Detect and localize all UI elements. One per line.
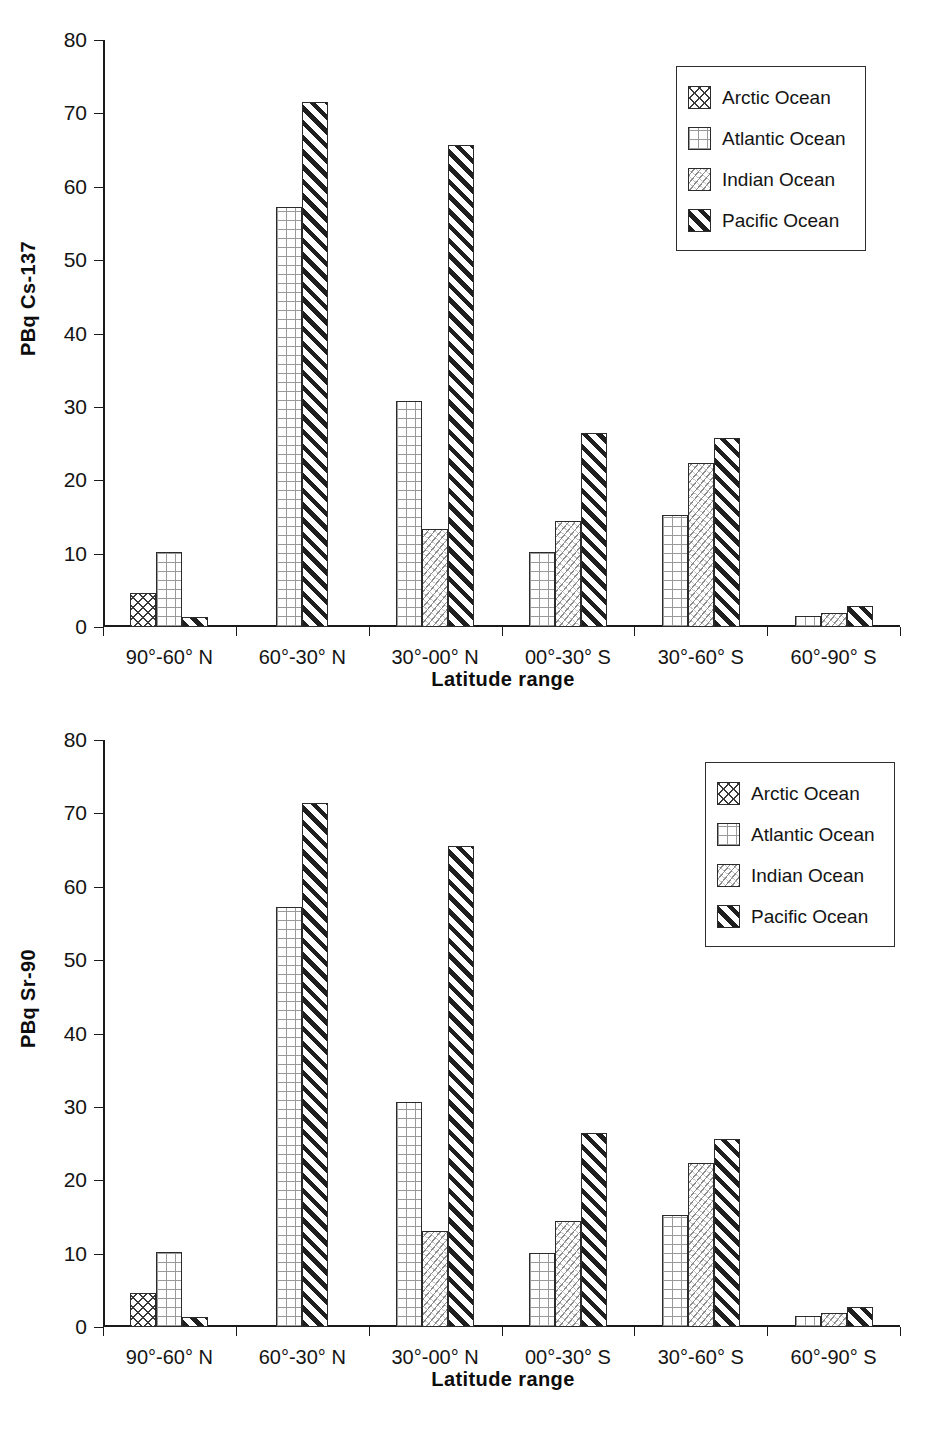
y-axis-tick: 80 (94, 740, 103, 741)
legend-item: Arctic Ocean (688, 77, 851, 118)
bar (688, 1163, 714, 1327)
x-axis-title: Latitude range (103, 668, 903, 691)
bar (276, 907, 302, 1327)
x-axis-category-label: 60°-90° S (791, 1347, 877, 1367)
x-axis-category-label: 00°-30° S (525, 647, 611, 667)
legend-swatch-icon (688, 168, 711, 191)
y-axis-tick-label: 50 (64, 249, 87, 270)
bar (795, 1316, 821, 1327)
bar (302, 803, 328, 1327)
bar (396, 1102, 422, 1327)
bar (156, 552, 182, 627)
legend-item-label: Indian Ocean (751, 866, 864, 885)
legend: Arctic OceanAtlantic OceanIndian OceanPa… (676, 66, 866, 251)
x-axis-category-label: 90°-60° N (126, 1347, 213, 1367)
x-axis-title: Latitude range (103, 1368, 903, 1391)
legend-item-label: Atlantic Ocean (722, 129, 846, 148)
y-axis-tick-label: 30 (64, 396, 87, 417)
y-axis-tick-label: 0 (75, 616, 87, 637)
y-axis-tick-label: 0 (75, 1316, 87, 1337)
bar (422, 1231, 448, 1327)
x-axis-category-label: 60°-30° N (259, 1347, 346, 1367)
bar (156, 1252, 182, 1327)
y-axis-tick: 60 (94, 187, 103, 188)
legend-item: Arctic Ocean (717, 773, 880, 814)
legend-swatch-icon (688, 86, 711, 109)
x-axis-category-label: 30°-60° S (658, 647, 744, 667)
x-axis-tick (369, 627, 370, 636)
y-axis-tick-label: 60 (64, 876, 87, 897)
y-axis-tick: 10 (94, 1254, 103, 1255)
bar (529, 552, 555, 627)
bar (448, 145, 474, 627)
legend-swatch-icon (688, 209, 711, 232)
y-axis-tick-label: 10 (64, 1243, 87, 1264)
bar (555, 521, 581, 627)
y-axis-tick-label: 60 (64, 176, 87, 197)
y-axis-tick-label: 20 (64, 1169, 87, 1190)
x-axis-tick (900, 627, 901, 636)
legend-swatch-icon (717, 864, 740, 887)
bar (182, 1317, 208, 1327)
y-axis-tick: 0 (94, 627, 103, 628)
legend-item-label: Atlantic Ocean (751, 825, 875, 844)
y-axis-tick-label: 70 (64, 102, 87, 123)
y-axis-tick: 0 (94, 1327, 103, 1328)
y-axis-tick-label: 50 (64, 949, 87, 970)
y-axis-title: PBq Sr-90 (17, 909, 40, 1089)
legend-swatch-icon (717, 782, 740, 805)
y-axis-tick-label: 80 (64, 729, 87, 750)
bar (182, 617, 208, 627)
x-axis-tick (369, 1327, 370, 1336)
y-axis-tick: 40 (94, 334, 103, 335)
legend-item-label: Pacific Ocean (722, 211, 839, 230)
y-axis-tick: 40 (94, 1034, 103, 1035)
legend-swatch-icon (717, 905, 740, 928)
y-axis-tick-label: 80 (64, 29, 87, 50)
bar (662, 515, 688, 627)
y-axis-tick: 10 (94, 554, 103, 555)
y-axis-line (103, 40, 105, 627)
bar (130, 1293, 156, 1327)
x-axis-tick (634, 627, 635, 636)
y-axis-tick-label: 40 (64, 323, 87, 344)
legend-item: Pacific Ocean (717, 896, 880, 937)
legend-item-label: Arctic Ocean (722, 88, 831, 107)
y-axis-tick: 60 (94, 887, 103, 888)
legend: Arctic OceanAtlantic OceanIndian OceanPa… (705, 762, 895, 947)
x-axis-tick (502, 627, 503, 636)
x-axis-category-label: 00°-30° S (525, 1347, 611, 1367)
bar (130, 593, 156, 627)
y-axis-tick: 20 (94, 480, 103, 481)
chart-panel-sr90: PBq Sr-90 01020304050607080 90°-60° N60°… (0, 700, 935, 1431)
y-axis-tick-label: 10 (64, 543, 87, 564)
bar (529, 1253, 555, 1327)
x-axis-tick (236, 627, 237, 636)
x-axis-tick (103, 1327, 104, 1336)
x-axis-tick (502, 1327, 503, 1336)
x-axis-category-label: 60°-30° N (259, 647, 346, 667)
legend-item-label: Pacific Ocean (751, 907, 868, 926)
bar (847, 1307, 873, 1327)
x-axis-tick (900, 1327, 901, 1336)
legend-item: Indian Ocean (688, 159, 851, 200)
bar (302, 102, 328, 627)
bar (847, 606, 873, 627)
legend-item: Indian Ocean (717, 855, 880, 896)
x-axis-category-label: 30°-00° N (392, 1347, 479, 1367)
bar (795, 616, 821, 627)
x-axis-tick (103, 627, 104, 636)
y-axis-line (103, 740, 105, 1327)
x-axis-tick (236, 1327, 237, 1336)
y-axis-tick: 50 (94, 960, 103, 961)
bar (581, 433, 607, 627)
y-axis-tick: 80 (94, 40, 103, 41)
bar (714, 438, 740, 627)
bar (422, 529, 448, 627)
y-axis-tick-label: 20 (64, 469, 87, 490)
y-axis-tick-label: 30 (64, 1096, 87, 1117)
x-axis-category-label: 30°-00° N (392, 647, 479, 667)
y-axis-tick: 50 (94, 260, 103, 261)
x-axis-category-label: 30°-60° S (658, 1347, 744, 1367)
bar (821, 613, 847, 627)
